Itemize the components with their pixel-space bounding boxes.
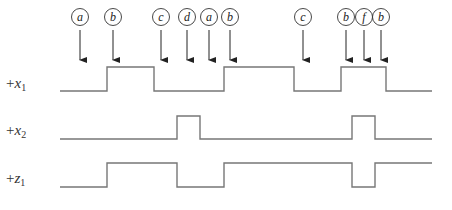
signal-label-x2: +x2 [6,123,26,140]
signal-subscript: 1 [21,82,26,93]
signal-subscript: 2 [21,129,26,140]
state-letter: b [227,10,233,24]
state-letter: c [158,10,164,24]
waveform-x1 [60,67,432,91]
state-marker-b: b [222,9,239,61]
state-letter: a [77,10,83,24]
state-letter: f [362,10,367,24]
state-marker-b: b [105,9,122,61]
state-marker-b: b [338,9,355,61]
state-marker-d: d [179,9,196,61]
state-marker-a: a [201,9,218,61]
signal-label-z1: +z1 [6,171,25,188]
state-letter: c [300,10,306,24]
state-marker-b: b [373,9,390,61]
state-letter: d [184,10,191,24]
state-marker-c: c [295,9,312,61]
state-markers: abcdabcbfb [72,9,390,61]
state-marker-c: c [153,9,170,61]
state-marker-a: a [72,9,89,61]
timing-diagram: abcdabcbfb [0,0,452,210]
waveform-z1 [60,163,432,187]
signal-label-x1: +x1 [6,76,26,93]
waveform-x2 [60,116,432,139]
waveforms [60,67,432,187]
state-letter: b [378,10,384,24]
state-marker-f: f [356,9,373,61]
state-letter: b [110,10,116,24]
signal-subscript: 1 [20,177,25,188]
state-letter: a [206,10,212,24]
state-letter: b [343,10,349,24]
